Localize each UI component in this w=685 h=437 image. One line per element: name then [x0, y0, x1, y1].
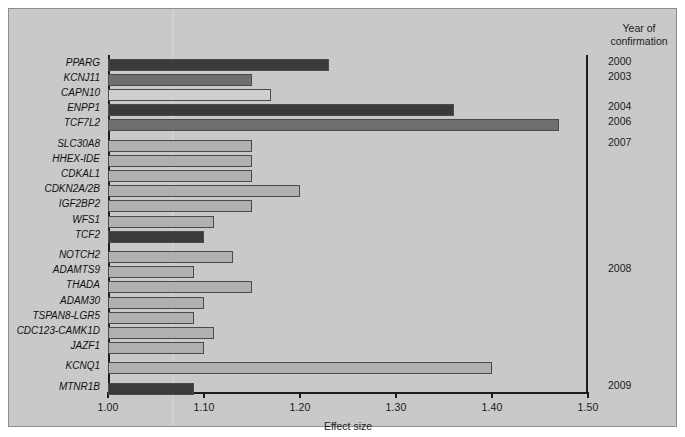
chart-figure: PPARGKCNJ11CAPN10ENPP1TCF7L2SLC30A8HHEX-…	[0, 0, 685, 437]
category-label-slc30a8: SLC30A8	[0, 136, 100, 152]
category-label-tspan8-lgr5: TSPAN8-LGR5	[0, 308, 100, 324]
bar-cdkn2a-2b	[108, 185, 300, 197]
bar-row	[108, 360, 588, 376]
bar-row	[108, 249, 588, 265]
year-header-line: Year of	[600, 22, 678, 35]
year-column-header: Year ofconfirmation	[600, 22, 678, 48]
bar-row	[108, 102, 588, 118]
bar-enpp1	[108, 104, 454, 116]
category-label-kcnj11: KCNJ11	[0, 70, 100, 86]
year-value-2009: 2009	[608, 379, 631, 391]
bar-row	[108, 87, 588, 103]
x-tick-label: 1.00	[98, 401, 119, 413]
bar-tcf2	[108, 231, 204, 243]
year-header-line: confirmation	[600, 35, 678, 48]
year-of-confirmation-column: Year ofconfirmation 20002003200420062007…	[600, 10, 680, 410]
bar-cdc123-camk1d	[108, 327, 214, 339]
bar-igf2bp2	[108, 200, 252, 212]
x-tick-label: 1.50	[578, 401, 599, 413]
bar-wfs1	[108, 216, 214, 228]
category-label-cdkn2a-2b: CDKN2A/2B	[0, 181, 100, 197]
bar-row	[108, 138, 588, 154]
bar-row	[108, 198, 588, 214]
bar-adam30	[108, 297, 204, 309]
category-label-adam30: ADAM30	[0, 293, 100, 309]
bar-row	[108, 264, 588, 280]
category-label-cdc123-camk1d: CDC123-CAMK1D	[0, 323, 100, 339]
bar-row	[108, 183, 588, 199]
bar-row	[108, 325, 588, 341]
category-label-thada: THADA	[0, 277, 100, 293]
bar-cdkal1	[108, 170, 252, 182]
bar-slc30a8	[108, 140, 252, 152]
plot-area: 1.001.101.201.301.401.50 Effect size	[108, 55, 588, 393]
year-value-2007: 2007	[608, 136, 631, 148]
bar-row	[108, 72, 588, 88]
category-label-tcf2: TCF2	[0, 227, 100, 243]
category-label-jazf1: JAZF1	[0, 338, 100, 354]
category-label-enpp1: ENPP1	[0, 100, 100, 116]
bar-row	[108, 153, 588, 169]
category-label-igf2bp2: IGF2BP2	[0, 196, 100, 212]
bar-mtnr1b	[108, 383, 194, 395]
bar-kcnj11	[108, 74, 252, 86]
year-value-2000: 2000	[608, 55, 631, 67]
category-label-capn10: CAPN10	[0, 85, 100, 101]
bar-row	[108, 295, 588, 311]
bar-pparg	[108, 59, 329, 71]
bar-capn10	[108, 89, 271, 101]
bar-row	[108, 229, 588, 245]
bar-kcnq1	[108, 362, 492, 374]
category-label-mtnr1b: MTNR1B	[0, 379, 100, 395]
bar-row	[108, 214, 588, 230]
bar-notch2	[108, 251, 233, 263]
bar-row	[108, 310, 588, 326]
category-label-notch2: NOTCH2	[0, 247, 100, 263]
x-axis-title: Effect size	[108, 420, 588, 432]
bar-tcf7l2	[108, 119, 559, 131]
year-value-2008: 2008	[608, 262, 631, 274]
category-label-wfs1: WFS1	[0, 212, 100, 228]
category-axis-labels: PPARGKCNJ11CAPN10ENPP1TCF7L2SLC30A8HHEX-…	[0, 55, 103, 393]
year-value-2003: 2003	[608, 70, 631, 82]
year-value-2004: 2004	[608, 100, 631, 112]
x-tick-label: 1.30	[386, 401, 407, 413]
bar-thada	[108, 281, 252, 293]
bar-hhex-ide	[108, 155, 252, 167]
category-label-hhex-ide: HHEX-IDE	[0, 151, 100, 167]
x-tick-label: 1.40	[482, 401, 503, 413]
bar-row	[108, 168, 588, 184]
category-label-tcf7l2: TCF7L2	[0, 115, 100, 131]
category-label-pparg: PPARG	[0, 55, 100, 71]
bar-tspan8-lgr5	[108, 312, 194, 324]
bar-row	[108, 279, 588, 295]
bar-row	[108, 57, 588, 73]
category-label-adamts9: ADAMTS9	[0, 262, 100, 278]
bar-row	[108, 340, 588, 356]
bar-row	[108, 381, 588, 397]
x-tick-label: 1.10	[194, 401, 215, 413]
x-tick-label: 1.20	[290, 401, 311, 413]
bar-jazf1	[108, 342, 204, 354]
year-value-2006: 2006	[608, 115, 631, 127]
bar-adamts9	[108, 266, 194, 278]
category-label-cdkal1: CDKAL1	[0, 166, 100, 182]
category-label-kcnq1: KCNQ1	[0, 358, 100, 374]
bar-row	[108, 117, 588, 133]
